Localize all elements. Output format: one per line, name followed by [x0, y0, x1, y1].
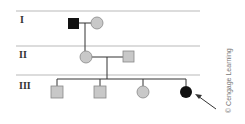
generation-label-1: I: [20, 14, 24, 25]
proband-arrow-icon: [198, 96, 216, 109]
generation-label-3: III: [19, 80, 31, 91]
individual-III-2-male: [94, 86, 106, 98]
individual-I-1-affected-male: [68, 18, 79, 29]
individual-II-2-male: [123, 51, 134, 62]
copyright-credit: © Cengage Learning: [225, 48, 232, 113]
individual-III-3-female: [137, 86, 149, 98]
generation-label-2: II: [19, 49, 27, 60]
individual-III-4-affected-female-proband: [180, 86, 192, 98]
individual-I-2-female: [91, 17, 103, 29]
pedigree-diagram: [0, 0, 245, 124]
individual-III-1-male: [51, 86, 63, 98]
individual-II-1-female: [80, 51, 92, 63]
